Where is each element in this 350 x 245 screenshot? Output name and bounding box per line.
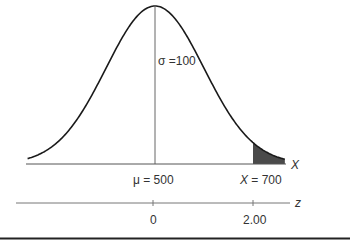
mu-label: μ = 500 (133, 174, 174, 186)
normal-curve (28, 6, 285, 159)
x-axis-label: X (291, 159, 299, 171)
x700-label: X = 700 (240, 174, 282, 186)
z-zero-label: 0 (150, 214, 157, 226)
x700-value: = 700 (248, 173, 282, 187)
x-variable: X (240, 173, 248, 187)
z-two-label: 2.00 (243, 214, 266, 226)
z-axis-label: z (295, 197, 301, 209)
sigma-label: σ =100 (158, 55, 196, 67)
